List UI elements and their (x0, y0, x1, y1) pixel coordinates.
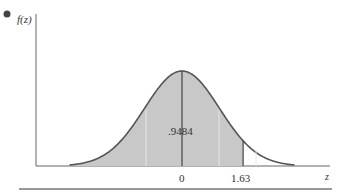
x-axis-label: z (325, 171, 329, 182)
tick-label-0: 0 (179, 172, 185, 184)
bullet-icon (4, 11, 11, 18)
tick-label-163: 1.63 (231, 172, 250, 184)
normal-curve-chart (0, 0, 359, 192)
area-label: .9484 (168, 125, 193, 137)
y-axis-label: f(z) (17, 13, 32, 25)
shaded-area (70, 71, 244, 166)
